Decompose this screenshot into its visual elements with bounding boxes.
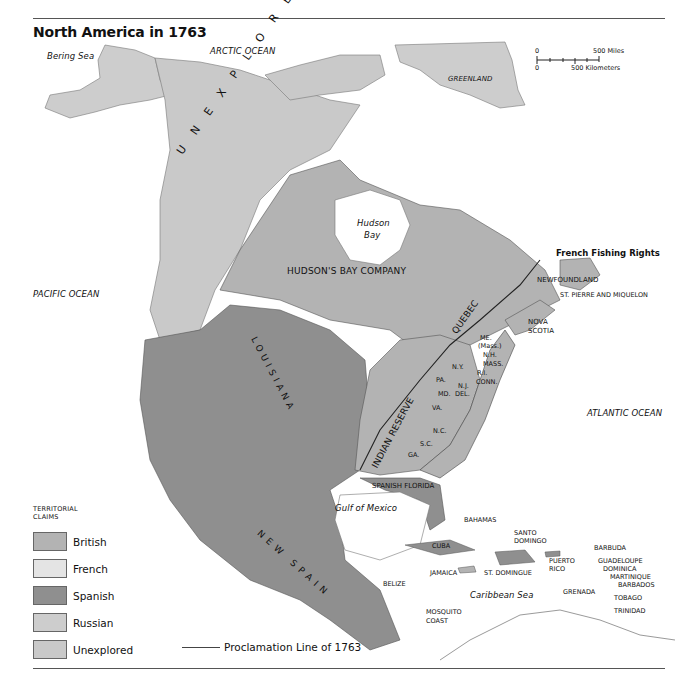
- jamaica-island: [458, 566, 476, 573]
- label-va: VA.: [432, 405, 442, 412]
- legend-label-british: British: [73, 536, 107, 548]
- label-st-pierre-miquelon: ST. PIERRE AND MIQUELON: [560, 292, 648, 299]
- label-pa: PA.: [436, 377, 446, 384]
- label-mosquito-coast-2: COAST: [426, 618, 448, 625]
- label-spanish-florida: SPANISH FLORIDA: [372, 482, 434, 490]
- legend-label-proclamation-line: Proclamation Line of 1763: [224, 641, 361, 653]
- label-nova-scotia-2: SCOTIA: [528, 327, 554, 335]
- label-hudsons-bay-company: HUDSON'S BAY COMPANY: [287, 266, 406, 276]
- label-st-domingue: ST. DOMINGUE: [484, 570, 532, 577]
- label-caribbean-sea: Caribbean Sea: [470, 591, 533, 601]
- label-gulf-of-mexico: Gulf of Mexico: [335, 504, 397, 514]
- label-atlantic-ocean: ATLANTIC OCEAN: [587, 409, 662, 419]
- label-jamaica: JAMAICA: [430, 570, 457, 577]
- legend-heading: TERRITORIAL CLAIMS: [33, 505, 78, 522]
- label-del: DEL.: [455, 391, 470, 398]
- label-barbados: BARBADOS: [618, 582, 655, 589]
- label-greenland: GREENLAND: [448, 75, 493, 83]
- scale-km-zero: 0: [535, 65, 539, 72]
- label-belize: BELIZE: [383, 581, 406, 588]
- label-newfoundland: NEWFOUNDLAND: [537, 276, 598, 284]
- label-cuba: CUBA: [432, 543, 450, 550]
- scale-bar: 0 500 Miles 0 500 Kilometers: [535, 48, 615, 74]
- legend-label-spanish: Spanish: [73, 590, 114, 602]
- legend-label-unexplored: Unexplored: [73, 644, 133, 656]
- legend-item-russian: Russian: [33, 613, 113, 632]
- scale-km-label: 500 Kilometers: [571, 65, 620, 72]
- legend-item-spanish: Spanish: [33, 586, 114, 605]
- label-tobago: TOBAGO: [614, 595, 642, 602]
- label-mass: MASS.: [483, 361, 503, 368]
- label-mosquito-coast-1: MOSQUITO: [426, 609, 462, 616]
- legend-heading-line-2: CLAIMS: [33, 513, 78, 521]
- label-nc: N.C.: [433, 428, 447, 435]
- legend-swatch-spanish: [33, 586, 67, 605]
- label-trinidad: TRINIDAD: [614, 608, 646, 615]
- label-nova-scotia-1: NOVA: [528, 318, 548, 326]
- legend-label-french: French: [73, 563, 108, 575]
- south-america-coast: [440, 610, 675, 660]
- label-pacific-ocean: PACIFIC OCEAN: [33, 290, 99, 300]
- label-ny: N.Y.: [452, 364, 464, 371]
- label-nh: N.H.: [483, 352, 497, 359]
- label-barbuda: BARBUDA: [594, 545, 626, 552]
- label-ri: R.I.: [477, 370, 487, 377]
- label-bering-sea: Bering Sea: [47, 52, 94, 62]
- legend-item-unexplored: Unexplored: [33, 640, 133, 659]
- bottom-rule: [33, 668, 665, 669]
- label-mass-paren: (Mass.): [478, 343, 502, 350]
- legend-label-russian: Russian: [73, 617, 113, 629]
- hispaniola-island: [495, 550, 535, 565]
- legend-item-french: French: [33, 559, 108, 578]
- label-md: MD.: [438, 391, 451, 398]
- proclamation-line-swatch: [182, 647, 220, 648]
- label-bahamas: BAHAMAS: [464, 517, 496, 524]
- label-ga: GA.: [408, 452, 419, 459]
- label-santo-domingo-2: DOMINGO: [514, 538, 547, 545]
- legend-swatch-french: [33, 559, 67, 578]
- label-puerto-rico-2: RICO: [549, 566, 565, 573]
- newfoundland-island: [560, 258, 600, 290]
- legend-heading-line-1: TERRITORIAL: [33, 505, 78, 513]
- arctic-islands: [265, 55, 385, 100]
- label-conn: CONN.: [476, 379, 497, 386]
- legend-swatch-british: [33, 532, 67, 551]
- label-hudson-bay: Hudson: [357, 219, 390, 229]
- legend-swatch-russian: [33, 613, 67, 632]
- label-sc: S.C.: [420, 441, 433, 448]
- scale-miles-label: 500 Miles: [593, 48, 624, 55]
- label-grenada: GRENADA: [563, 589, 595, 596]
- legend-item-british: British: [33, 532, 107, 551]
- scale-miles-zero: 0: [535, 48, 539, 55]
- legend-item-proclamation-line: Proclamation Line of 1763: [182, 641, 361, 653]
- label-french-fishing-rights: French Fishing Rights: [556, 248, 660, 258]
- label-hudson-bay-2: Bay: [364, 231, 380, 241]
- legend-swatch-unexplored: [33, 640, 67, 659]
